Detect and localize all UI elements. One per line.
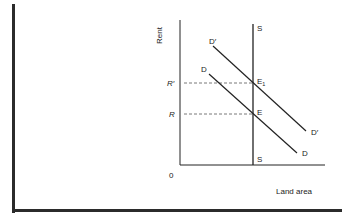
rent-diagram: Rent Land area 0 R′ R S S D′ D′ D D E1 E: [0, 0, 342, 214]
x-axis-label: Land area: [276, 187, 313, 196]
demand-shifted-end-label: D′: [311, 128, 319, 137]
demand-shifted-curve: [213, 46, 306, 131]
demand-shifted-start-label: D′: [209, 37, 217, 46]
y-axis-label: Rent: [155, 26, 164, 44]
r-label: R: [169, 110, 175, 119]
supply-top-label: S: [257, 24, 262, 33]
r-prime-label: R′: [167, 79, 175, 88]
equilibrium-new-subscript: 1: [262, 81, 265, 87]
equilibrium-original-label: E: [257, 108, 262, 117]
demand-end-label: D: [302, 149, 308, 158]
supply-bottom-label: S: [257, 155, 262, 164]
origin-label: 0: [169, 171, 174, 180]
equilibrium-new-label: E1: [257, 77, 265, 87]
demand-start-label: D: [201, 65, 207, 74]
